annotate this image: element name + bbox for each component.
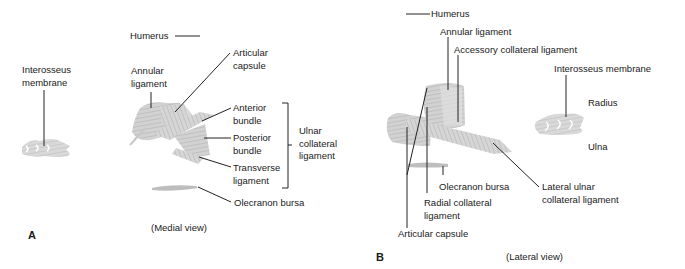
label-a-humerus: Humerus [130, 30, 169, 43]
label-a-transverse-ligament: Transverse ligament [233, 162, 280, 187]
label-a-posterior-bundle: Posterior bundle [233, 132, 271, 157]
label-b-olecranon-bursa: Olecranon bursa [439, 181, 509, 194]
label-b-lateral-ulnar-collateral-ligament: Lateral ulnar collateral ligament [542, 181, 619, 206]
label-b-radius: Radius [588, 97, 618, 110]
label-a-ulnar-collateral-ligament: Ulnar collateral ligament [299, 125, 337, 163]
label-a-anterior-bundle: Anterior bundle [233, 102, 266, 127]
panel-a-letter: A [28, 229, 36, 241]
label-a-interosseus-membrane: Interosseus membrane [22, 64, 71, 89]
label-b-radial-collateral-ligament: Radial collateral ligament [424, 197, 492, 222]
panel-a-view-caption: (Medial view) [151, 222, 207, 233]
panel-a-interosseus-membrane-drawing [22, 139, 70, 157]
label-b-humerus: Humerus [431, 8, 470, 21]
panel-a-elbow-ligaments-drawing [130, 102, 214, 190]
label-a-annular-ligament: Annular ligament [131, 65, 167, 90]
panel-b-view-caption: (Lateral view) [506, 251, 563, 262]
label-b-accessory-collateral-ligament: Accessory collateral ligament [454, 44, 577, 57]
label-b-annular-ligament: Annular ligament [440, 26, 511, 39]
label-a-articular-capsule: Articular capsule [233, 47, 268, 72]
label-a-olecranon-bursa: Olecranon bursa [234, 197, 304, 210]
panel-b-elbow-ligaments-drawing [387, 83, 512, 168]
label-b-articular-capsule: Articular capsule [398, 228, 468, 241]
diagram-artwork [0, 0, 685, 269]
panel-b-letter: B [376, 251, 384, 263]
label-b-ulna: Ulna [588, 141, 608, 154]
panel-b-interosseus-membrane-drawing [535, 114, 584, 136]
label-b-interosseus-membrane: Interosseus membrane [554, 63, 651, 76]
